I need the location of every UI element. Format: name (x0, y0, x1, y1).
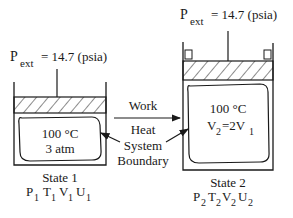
system-label: System (124, 138, 162, 153)
state1-prop-v-sub: 1 (68, 192, 73, 203)
state2-volume-lhs-sub: 2 (216, 126, 221, 137)
state1-prop-p: P (26, 184, 33, 199)
work-label: Work (129, 98, 158, 113)
state2-left-stop (185, 50, 192, 59)
state1-prop-p-sub: 1 (34, 192, 39, 203)
state1-prop-t: T (43, 184, 51, 199)
state2-prop-v-sub: 2 (231, 197, 236, 208)
state2-temperature: 100 °C (210, 101, 247, 116)
state1-piston (14, 97, 106, 113)
boundary-pointer-right-icon (166, 129, 188, 142)
boundary-pointer-left-icon (101, 133, 120, 142)
state1-pext-value: = 14.7 (psia) (41, 49, 107, 64)
state2-prop-t-sub: 2 (216, 197, 221, 208)
state2-properties: P 2 T 2 V 2 U 2 (193, 189, 253, 208)
state2-pext-value: = 14.7 (psia) (211, 7, 277, 22)
heat-label: Heat (131, 122, 156, 137)
state2-prop-p: P (193, 189, 200, 204)
boundary-label: Boundary (117, 153, 169, 168)
process-annotations: Work Heat System Boundary (101, 98, 188, 168)
state1-cylinder: P ext = 14.7 (psia) 100 °C 3 atm State 1… (10, 49, 107, 203)
state2-prop-t: T (208, 189, 216, 204)
state2-volume-rhs-sub: 1 (249, 126, 254, 137)
state1-pext-symbol: P (10, 49, 18, 64)
state1-pext-subscript: ext (20, 57, 33, 69)
piston-cylinder-diagram: P ext = 14.7 (psia) 100 °C 3 atm State 1… (0, 0, 293, 218)
state2-volume-rhs: =2V (222, 118, 246, 133)
state2-prop-u-sub: 2 (248, 197, 253, 208)
state2-right-stop (264, 50, 271, 59)
state2-pext-subscript: ext (190, 15, 203, 27)
state1-prop-t-sub: 1 (51, 192, 56, 203)
state1-prop-u-sub: 1 (86, 192, 91, 203)
state2-title: State 2 (210, 175, 246, 190)
state2-prop-p-sub: 2 (201, 197, 206, 208)
state1-title: State 1 (42, 170, 78, 185)
state1-temperature: 100 °C (42, 126, 79, 141)
state2-volume-relation: V 2 =2V 1 (207, 118, 254, 137)
state2-piston (183, 61, 273, 80)
state1-pressure: 3 atm (45, 141, 74, 156)
state1-properties: P 1 T 1 V 1 U 1 (26, 184, 91, 203)
state2-cylinder: P ext = 14.7 (psia) 100 °C V 2 =2V 1 Sta… (180, 7, 277, 208)
state1-prop-u: U (76, 184, 86, 199)
state2-prop-u: U (238, 189, 248, 204)
state2-pext-symbol: P (180, 7, 188, 22)
